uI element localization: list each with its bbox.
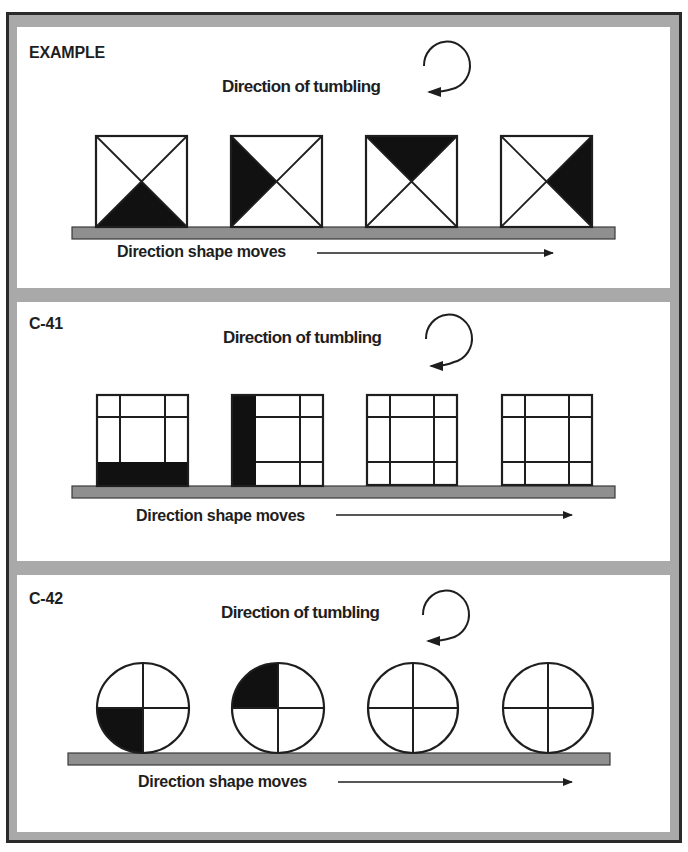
rotation-arrow-icon: [424, 42, 470, 92]
diagram-graphics: [0, 0, 688, 852]
ground-bar: [68, 753, 610, 765]
shape-square-x-4: [501, 136, 592, 227]
shape-square-x-3: [366, 136, 457, 227]
shape-grid-2: [232, 395, 323, 486]
rotation-arrow-icon: [426, 315, 472, 366]
shape-circle-1: [97, 663, 189, 753]
shape-grid-1: [97, 395, 188, 486]
shape-circle-2: [232, 663, 324, 753]
shape-circle-3: [368, 663, 458, 753]
rotation-arrow-icon: [423, 591, 469, 641]
shape-square-x-1: [96, 136, 187, 227]
ground-bar: [72, 227, 615, 239]
tumbling-shapes-diagram: EXAMPLE Direction of tumbling Direction …: [0, 0, 688, 852]
shape-circle-4: [503, 663, 593, 753]
shape-square-x-2: [231, 136, 322, 227]
shape-grid-4: [502, 395, 592, 485]
ground-bar: [72, 486, 615, 498]
shape-grid-3: [367, 395, 457, 485]
